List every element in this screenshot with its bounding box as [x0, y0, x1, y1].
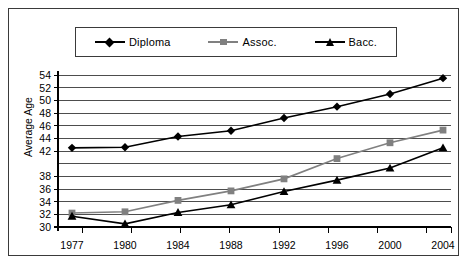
legend-item-bacc[interactable]: Bacc. [315, 37, 378, 48]
y-axis-tick-label: 46 [39, 120, 51, 132]
data-point-marker [440, 127, 447, 134]
y-axis-tick-label: 32 [39, 208, 51, 220]
y-axis-tick-label: 30 [39, 221, 51, 233]
data-point-marker [281, 175, 288, 182]
square-marker-icon [208, 41, 238, 43]
x-axis-tick-label: 2000 [378, 239, 402, 251]
legend-item-assoc[interactable]: Assoc. [208, 37, 276, 48]
data-point-marker [174, 132, 182, 140]
y-axis-tick-label: 42 [39, 145, 51, 157]
data-point-marker [333, 102, 341, 110]
y-axis-tick-label: 38 [39, 170, 51, 182]
data-point-marker [228, 188, 235, 195]
data-point-marker [280, 114, 288, 122]
x-axis-tick-label: 1984 [166, 239, 190, 251]
data-point-marker [439, 143, 448, 151]
x-axis-tick-label: 1977 [60, 239, 84, 251]
data-point-marker [121, 143, 129, 151]
chart-legend: Diploma Assoc. Bacc. [75, 27, 397, 57]
legend-item-diploma[interactable]: Diploma [95, 37, 171, 48]
chart-frame: Average Age 5452504846444238363432301977… [8, 8, 459, 256]
legend-label-diploma: Diploma [129, 37, 171, 48]
data-point-marker [386, 90, 394, 98]
x-axis-tick-label: 1980 [113, 239, 137, 251]
x-axis-tick-label: 1996 [325, 239, 349, 251]
y-axis-tick-label: 36 [39, 183, 51, 195]
y-axis-tick-label: 50 [39, 94, 51, 106]
data-point-marker [227, 127, 235, 135]
y-axis-tick-label: 48 [39, 107, 51, 119]
y-axis-tick-label: 34 [39, 196, 51, 208]
diamond-marker-icon [95, 41, 125, 43]
data-point-marker [387, 139, 394, 146]
legend-label-bacc: Bacc. [349, 37, 378, 48]
data-point-marker [175, 197, 182, 204]
data-point-marker [334, 155, 341, 162]
y-axis-tick-label: 44 [39, 132, 51, 144]
data-point-marker [122, 208, 129, 215]
x-axis-tick-label: 1992 [272, 239, 296, 251]
y-axis-tick-label: 54 [39, 69, 51, 81]
y-axis-tick-label: 52 [39, 82, 51, 94]
x-axis-tick-label: 1988 [219, 239, 243, 251]
x-axis-tick-label: 2004 [431, 239, 455, 251]
triangle-marker-icon [315, 41, 345, 43]
legend-label-assoc: Assoc. [242, 37, 276, 48]
